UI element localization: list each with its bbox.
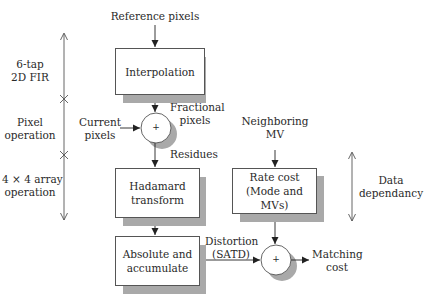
hadamard-label-1: Hadamard (129, 179, 185, 193)
rate-label-2: (Mode and MVs) (233, 184, 316, 212)
axis-label-pixel-2: operation (2, 129, 58, 142)
axis-label-array-1: 4 × 4 array (2, 173, 58, 186)
matching-cost-label-1: Matching (312, 248, 362, 261)
adder-1-symbol: + (150, 121, 162, 134)
interpolation-label: Interpolation (125, 65, 195, 79)
matching-cost-label-2: cost (312, 261, 362, 274)
absolute-label-1: Absolute and (123, 247, 193, 261)
hadamard-block: Hadamard transform (115, 168, 200, 218)
absolute-label-2: accumulate (127, 261, 189, 275)
distortion-label-2: (SATD) (205, 248, 257, 261)
residues-label: Residues (170, 148, 218, 161)
rate-cost-block: Rate cost (Mode and MVs) (232, 168, 317, 214)
fractional-pixels-label-1: Fractional (170, 101, 220, 114)
data-dependancy-label-1: Data (358, 174, 424, 187)
absolute-block: Absolute and accumulate (115, 236, 200, 286)
axis-label-array-2: operation (2, 186, 58, 199)
hadamard-label-2: transform (131, 193, 184, 207)
current-pixels-label-2: pixels (78, 129, 122, 142)
rate-label-1: Rate cost (250, 170, 300, 184)
neighboring-mv-label-1: Neighboring (240, 115, 310, 128)
axis-label-fir-2: 2D FIR (2, 71, 58, 84)
fractional-pixels-label-2: pixels (170, 114, 220, 127)
distortion-label-1: Distortion (205, 235, 257, 248)
reference-pixels-label: Reference pixels (105, 10, 205, 23)
left-axis (60, 34, 68, 220)
data-dependancy-label-2: dependancy (358, 187, 424, 200)
axis-label-pixel-1: Pixel (2, 116, 58, 129)
current-pixels-label-1: Current (78, 116, 122, 129)
adder-2-symbol: + (270, 253, 282, 266)
axis-label-fir-1: 6-tap (2, 58, 58, 71)
neighboring-mv-label-2: MV (240, 128, 310, 141)
interpolation-block: Interpolation (115, 48, 205, 95)
